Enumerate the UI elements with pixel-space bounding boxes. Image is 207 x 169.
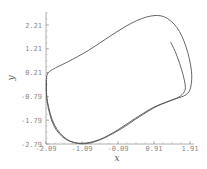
y-tick-labels: -2.79-1.79-0.790.211.212.21 [21,22,42,149]
phase-plot: -2.79-1.79-0.790.211.212.21 -2.09-1.09-0… [0,0,207,169]
trajectory-curve [46,15,191,143]
y-tick-label: 1.21 [25,45,42,53]
x-tick-label: 0.91 [146,145,163,153]
x-axis [46,141,194,144]
y-tick-label: -1.79 [21,117,42,125]
x-axis-label: x [114,153,119,163]
x-tick-label: 1.91 [182,145,199,153]
y-tick-label: -0.79 [21,93,42,101]
x-tick-label: -1.09 [71,145,92,153]
x-tick-label: -0.09 [107,145,128,153]
y-tick-label: 2.21 [25,22,42,30]
x-tick-labels: -2.09-1.09-0.090.911.91 [35,145,198,153]
x-tick-label: -2.09 [35,145,56,153]
y-axis-label: y [6,75,16,82]
y-tick-label: 0.21 [25,69,42,77]
